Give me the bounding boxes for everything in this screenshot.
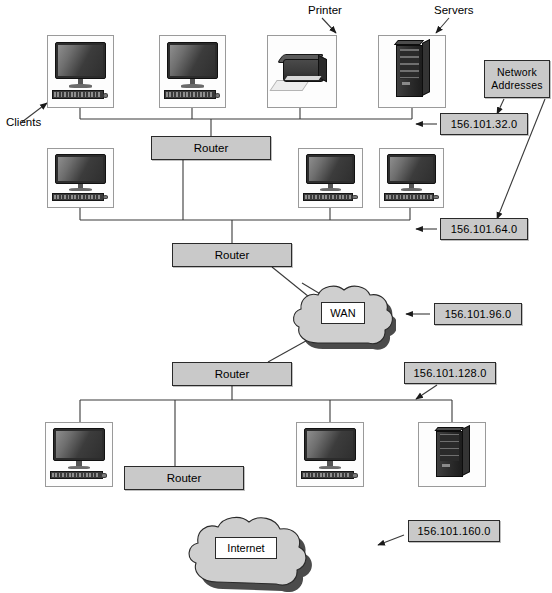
callout-servers: Servers: [434, 4, 474, 16]
router-label: Router: [167, 472, 202, 484]
addr-value: 156.101.128.0: [414, 367, 487, 379]
addr-subnet-32: 156.101.32.0: [440, 113, 528, 135]
router-lan3[interactable]: Router: [124, 466, 244, 490]
addr-value: 156.101.32.0: [451, 118, 518, 130]
addr-subnet-160: 156.101.160.0: [408, 520, 500, 542]
device-client-3[interactable]: [47, 148, 114, 208]
router-label: Router: [194, 142, 229, 154]
mouse-icon: [103, 195, 109, 199]
keyboard-icon: [52, 193, 104, 201]
cloud-label-text: WAN: [330, 307, 355, 319]
device-client-5[interactable]: [379, 148, 444, 208]
computer-icon: [48, 36, 113, 107]
computer-icon: [48, 149, 113, 207]
wan-cloud: WAN: [288, 281, 396, 353]
mouse-icon: [352, 473, 358, 477]
device-client-7[interactable]: [296, 422, 364, 487]
addr-subnet-96: 156.101.96.0: [434, 303, 522, 325]
router-label: Router: [215, 249, 250, 261]
mouse-icon: [101, 473, 107, 477]
cloud-label-text: Internet: [227, 542, 264, 554]
computer-icon: [297, 423, 363, 486]
mouse-icon: [352, 195, 358, 199]
network-diagram-canvas: Clients Printer Servers Network Addresse…: [0, 0, 552, 593]
callout-clients: Clients: [6, 116, 41, 128]
wan-cloud-label: WAN: [321, 302, 365, 324]
network-addresses-line-2: Addresses: [491, 79, 542, 92]
addr-subnet-64: 156.101.64.0: [440, 218, 528, 240]
router-lan1[interactable]: Router: [151, 136, 271, 160]
router-lan2[interactable]: Router: [172, 243, 292, 267]
device-client-4[interactable]: [298, 148, 363, 208]
monitor-icon: [55, 154, 106, 184]
addr-value: 156.101.64.0: [451, 223, 518, 235]
printer-icon: [268, 36, 336, 107]
mouse-icon: [103, 93, 109, 98]
callout-printer: Printer: [308, 4, 342, 16]
device-client-1[interactable]: [47, 35, 114, 108]
addr-value: 156.101.160.0: [418, 525, 491, 537]
keyboard-icon: [384, 193, 434, 201]
server-icon: [419, 423, 485, 486]
monitor-icon: [55, 42, 106, 79]
monitor-icon: [53, 428, 104, 461]
keyboard-icon: [52, 90, 104, 99]
keyboard-icon: [50, 471, 103, 479]
computer-icon: [160, 36, 225, 107]
monitor-icon: [304, 428, 355, 461]
monitor-icon: [387, 154, 436, 184]
network-addresses-legend: Network Addresses: [484, 60, 550, 98]
device-client-2[interactable]: [159, 35, 226, 108]
computer-icon: [380, 149, 443, 207]
device-server-1[interactable]: [378, 35, 446, 108]
device-client-6[interactable]: [45, 422, 113, 487]
internet-cloud-label: Internet: [215, 537, 277, 559]
mouse-icon: [433, 195, 439, 199]
keyboard-icon: [303, 193, 353, 201]
computer-icon: [46, 423, 112, 486]
internet-cloud: Internet: [183, 514, 313, 592]
keyboard-icon: [164, 90, 216, 99]
keyboard-icon: [301, 471, 354, 479]
mouse-icon: [215, 93, 221, 98]
router-wan-uplink[interactable]: Router: [172, 362, 292, 386]
addr-value: 156.101.96.0: [445, 308, 512, 320]
network-addresses-line-1: Network: [497, 66, 537, 79]
monitor-icon: [306, 154, 355, 184]
monitor-icon: [167, 42, 218, 79]
server-icon: [379, 36, 445, 107]
router-label: Router: [215, 368, 250, 380]
device-printer-1[interactable]: [267, 35, 337, 108]
device-server-2[interactable]: [418, 422, 486, 487]
addr-subnet-128: 156.101.128.0: [404, 362, 496, 384]
computer-icon: [299, 149, 362, 207]
